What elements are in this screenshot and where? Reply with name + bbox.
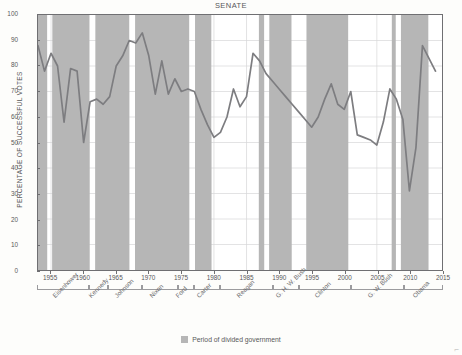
legend-swatch-divided-government <box>181 336 188 343</box>
corner-scribble: ⌐ <box>454 345 459 354</box>
y-tick-mark <box>37 143 40 144</box>
y-tick-mark <box>37 245 40 246</box>
y-tick-label: 30 <box>0 190 18 197</box>
y-tick-mark <box>37 220 40 221</box>
chart-title: SENATE <box>0 1 462 10</box>
y-tick-mark <box>37 40 40 41</box>
x-tick-mark <box>378 271 379 274</box>
x-tick-mark <box>279 271 280 274</box>
y-tick-mark <box>37 168 40 169</box>
y-tick-label: 20 <box>0 216 18 223</box>
x-tick-mark <box>345 271 346 274</box>
legend-label-divided-government: Period of divided government <box>192 336 280 343</box>
x-tick-mark <box>410 271 411 274</box>
y-tick-label: 90 <box>0 36 18 43</box>
x-tick-mark <box>247 271 248 274</box>
x-tick-mark <box>312 271 313 274</box>
x-tick-mark <box>116 271 117 274</box>
plot-area <box>37 14 443 271</box>
x-tick-mark <box>50 271 51 274</box>
y-tick-mark <box>37 65 40 66</box>
y-tick-mark <box>37 271 40 272</box>
y-tick-label: 10 <box>0 241 18 248</box>
chart-root: SENATE PERCENTAGE OF SUCCESSFUL VOTES 01… <box>0 0 462 355</box>
y-tick-label: 50 <box>0 139 18 146</box>
y-tick-label: 80 <box>0 61 18 68</box>
x-tick-mark <box>148 271 149 274</box>
x-tick-mark <box>181 271 182 274</box>
x-tick-label: 2015 <box>423 274 462 281</box>
y-tick-mark <box>37 194 40 195</box>
x-tick-mark <box>83 271 84 274</box>
y-tick-label: 40 <box>0 164 18 171</box>
y-tick-mark <box>37 14 40 15</box>
y-tick-label: 100 <box>0 10 18 17</box>
y-tick-mark <box>37 91 40 92</box>
legend: Period of divided government <box>0 336 462 343</box>
x-tick-mark <box>443 271 444 274</box>
x-tick-mark <box>214 271 215 274</box>
y-tick-mark <box>37 117 40 118</box>
chart-svg <box>38 15 442 270</box>
y-tick-label: 0 <box>0 267 18 274</box>
y-tick-label: 70 <box>0 87 18 94</box>
y-tick-label: 60 <box>0 113 18 120</box>
